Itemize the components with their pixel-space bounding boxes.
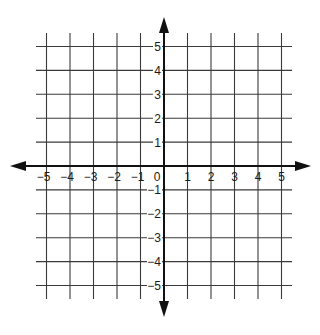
x-tick-label: 3 [231, 170, 238, 184]
x-tick-label: −4 [60, 170, 74, 184]
y-tick-label: 1 [154, 136, 161, 150]
y-tick-label: −4 [147, 255, 161, 269]
x-tick-label: −2 [107, 170, 121, 184]
y-tick-label: −3 [147, 231, 161, 245]
y-tick-label: 4 [154, 64, 161, 78]
x-tick-label: −1 [131, 170, 145, 184]
x-tick-label: 5 [278, 170, 285, 184]
y-axis-down-arrow-icon [159, 301, 169, 317]
x-tick-label: −3 [84, 170, 98, 184]
axes [10, 17, 311, 317]
x-tick-label: −5 [37, 170, 51, 184]
x-axis-left-arrow-icon [10, 161, 26, 171]
coordinate-plane: −5−4−3−2−1012345 54321−1−2−3−4−5 [0, 0, 320, 335]
x-tick-label: 2 [208, 170, 215, 184]
x-tick-label: 0 [154, 170, 161, 184]
y-tick-label: −2 [147, 207, 161, 221]
y-tick-label: 5 [154, 40, 161, 54]
y-axis-up-arrow-icon [159, 17, 169, 33]
y-tick-label: −5 [147, 279, 161, 293]
y-tick-label: −1 [147, 183, 161, 197]
y-tick-label: 2 [154, 112, 161, 126]
x-tick-label: 4 [255, 170, 262, 184]
x-tick-label: 1 [184, 170, 191, 184]
y-tick-label: 3 [154, 88, 161, 102]
x-tick-labels: −5−4−3−2−1012345 [37, 170, 285, 184]
x-axis-right-arrow-icon [295, 161, 311, 171]
